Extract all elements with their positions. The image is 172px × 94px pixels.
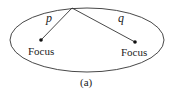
- left-focus-point: [39, 38, 43, 42]
- caption: (a): [80, 76, 93, 89]
- right-focus-label: Focus: [121, 46, 147, 58]
- left-focus-label: Focus: [28, 45, 54, 57]
- right-focus-point: [133, 40, 137, 44]
- label-q: q: [118, 11, 124, 25]
- ellipse-diagram: p q Focus Focus (a): [0, 0, 172, 94]
- label-p: p: [45, 11, 52, 25]
- segment-q: [72, 8, 135, 42]
- ellipse: [10, 8, 164, 72]
